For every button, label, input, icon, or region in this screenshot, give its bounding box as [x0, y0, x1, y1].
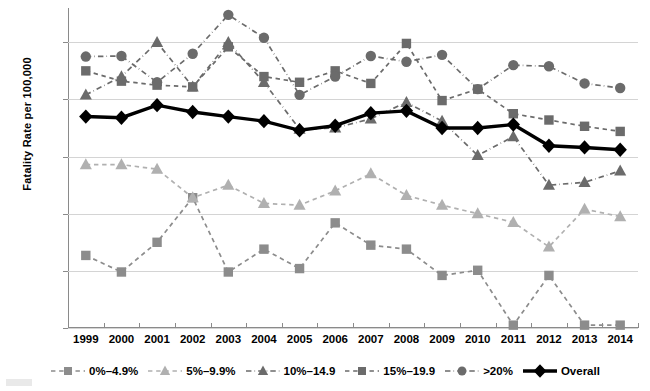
- scan-artifact: [6, 379, 32, 386]
- series-0-4-9: [81, 193, 625, 330]
- series-layer: [68, 8, 638, 328]
- x-tick-label: 2008: [394, 333, 420, 345]
- x-tick-label: 2014: [607, 333, 633, 345]
- data-point: [436, 199, 448, 210]
- legend-swatch-diamond-icon: [522, 364, 558, 378]
- x-tick-label: 2000: [109, 333, 135, 345]
- data-point: [222, 109, 235, 123]
- x-tick-label: 2005: [287, 333, 313, 345]
- data-point: [615, 320, 624, 329]
- data-point: [366, 51, 376, 61]
- data-point: [115, 158, 127, 169]
- data-point: [544, 115, 553, 124]
- legend-swatch-square-icon: [344, 364, 380, 378]
- data-point: [509, 320, 518, 329]
- x-tick-label: 2001: [144, 333, 170, 345]
- legend-swatch-triangle-icon: [245, 364, 281, 378]
- x-tickmark: [638, 323, 639, 328]
- legend-label: 0%–4.9%: [89, 365, 138, 377]
- data-point: [544, 61, 554, 71]
- data-point: [151, 36, 163, 47]
- data-point: [152, 77, 162, 87]
- data-point: [259, 244, 268, 253]
- data-point: [508, 60, 518, 70]
- x-tick-label: 2002: [180, 333, 206, 345]
- data-point: [437, 271, 446, 280]
- series-line: [86, 42, 620, 185]
- legend-item-20[interactable]: >20%: [444, 364, 513, 378]
- data-point: [150, 98, 163, 112]
- x-tick-label: 2009: [429, 333, 455, 345]
- x-tick-label: 2003: [216, 333, 242, 345]
- legend-label: Overall: [561, 365, 600, 377]
- data-point: [223, 10, 233, 20]
- data-point: [79, 109, 92, 123]
- series-line: [86, 198, 620, 325]
- legend-item-0-4-9[interactable]: 0%–4.9%: [50, 364, 138, 378]
- data-point: [542, 139, 555, 153]
- data-point: [578, 140, 591, 154]
- legend-item-10-14-9[interactable]: 10%–14.9: [245, 364, 336, 378]
- x-tick-label: 2013: [572, 333, 598, 345]
- data-point: [81, 51, 91, 61]
- data-point: [294, 90, 304, 100]
- data-point: [365, 167, 377, 178]
- data-point: [222, 179, 234, 190]
- data-point: [613, 143, 626, 157]
- data-point: [615, 83, 625, 93]
- legend-label: 10%–14.9: [284, 365, 336, 377]
- data-point: [402, 244, 411, 253]
- data-point: [258, 197, 270, 208]
- data-point: [580, 320, 589, 329]
- data-point: [437, 50, 447, 60]
- plot-area: 012345: [68, 8, 638, 328]
- x-tick-label: 2010: [465, 333, 491, 345]
- series-line: [86, 105, 620, 150]
- data-point: [152, 238, 161, 247]
- data-point: [293, 123, 306, 137]
- x-tick-label: 2011: [501, 333, 526, 345]
- legend-item-5-9-9[interactable]: 5%–9.9%: [147, 364, 235, 378]
- data-point: [116, 51, 126, 61]
- series-overall: [79, 98, 627, 157]
- data-point: [579, 78, 589, 88]
- series-20: [81, 10, 626, 100]
- x-tick-label: 2012: [536, 333, 562, 345]
- data-point: [473, 266, 482, 275]
- data-point: [115, 111, 128, 125]
- x-tick-label: 2004: [251, 333, 277, 345]
- data-point: [330, 218, 339, 227]
- data-point: [257, 114, 270, 128]
- y-axis-title: Fatality Rate per 100,000: [21, 34, 33, 214]
- data-point: [471, 121, 484, 135]
- data-point: [507, 130, 519, 141]
- data-point: [295, 264, 304, 273]
- data-point: [80, 88, 92, 99]
- legend-item-overall[interactable]: Overall: [522, 364, 600, 378]
- data-point: [330, 71, 340, 81]
- data-point: [472, 84, 482, 94]
- data-point: [224, 267, 233, 276]
- data-point: [437, 96, 446, 105]
- data-point: [294, 199, 306, 210]
- legend-label: 15%–19.9: [383, 365, 435, 377]
- data-point: [400, 189, 412, 200]
- data-point: [259, 33, 269, 43]
- legend-swatch-circle-icon: [444, 364, 480, 378]
- data-point: [507, 117, 520, 131]
- data-point: [364, 106, 377, 120]
- gridline: [68, 328, 638, 329]
- data-point: [80, 158, 92, 169]
- data-point: [401, 57, 411, 67]
- x-tick-label: 2006: [322, 333, 348, 345]
- data-point: [186, 105, 199, 119]
- data-point: [366, 240, 375, 249]
- data-point: [507, 216, 519, 227]
- data-point: [188, 82, 197, 91]
- legend-item-15-19-9[interactable]: 15%–19.9: [344, 364, 435, 378]
- data-point: [81, 251, 90, 260]
- data-point: [295, 78, 304, 87]
- data-point: [509, 109, 518, 118]
- legend-swatch-square-icon: [50, 364, 86, 378]
- x-tick-label: 2007: [358, 333, 384, 345]
